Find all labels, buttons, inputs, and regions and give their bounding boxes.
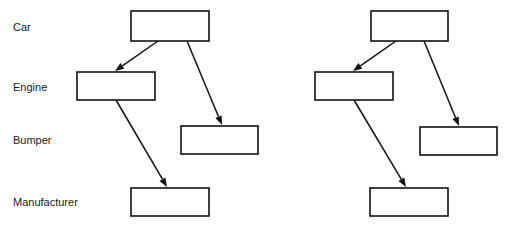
row-label-group: CarEngineBumperManufacturer <box>13 21 78 208</box>
row-label-bumper: Bumper <box>13 134 52 146</box>
edge-line <box>360 41 396 66</box>
edge-line <box>354 100 401 179</box>
left-engine-box[interactable] <box>77 72 155 100</box>
edge-line <box>116 100 162 179</box>
diagram-group <box>77 11 497 216</box>
arrowhead-icon <box>398 178 406 187</box>
edge-engine-to-manufacturer <box>116 100 167 187</box>
arrowhead-icon <box>115 63 124 71</box>
row-label-car: Car <box>13 21 31 33</box>
row-label-engine: Engine <box>13 81 47 93</box>
right-engine-box[interactable] <box>315 72 393 100</box>
edge-car-to-engine <box>115 41 158 71</box>
left-bumper-box[interactable] <box>181 126 258 154</box>
edge-line <box>187 41 219 117</box>
right-car-box[interactable] <box>371 11 448 41</box>
right-diagram <box>315 11 497 216</box>
edge-line <box>424 41 456 118</box>
right-manufacturer-box[interactable] <box>370 188 448 216</box>
right-bumper-box[interactable] <box>420 127 497 155</box>
arrowhead-icon <box>452 116 459 126</box>
left-car-box[interactable] <box>131 11 209 41</box>
edge-engine-to-manufacturer <box>354 100 406 187</box>
edge-car-to-engine <box>353 41 396 71</box>
edge-car-to-bumper <box>187 41 222 125</box>
arrowhead-icon <box>353 63 362 71</box>
edge-line <box>122 41 158 66</box>
class-diagram-svg: CarEngineBumperManufacturer <box>0 0 512 229</box>
arrowhead-icon <box>160 178 167 187</box>
edge-car-to-bumper <box>424 41 459 126</box>
row-label-manufacturer: Manufacturer <box>13 196 78 208</box>
diagram-canvas: CarEngineBumperManufacturer <box>0 0 512 229</box>
left-diagram <box>77 11 258 216</box>
left-manufacturer-box[interactable] <box>131 188 209 216</box>
arrowhead-icon <box>215 115 222 125</box>
